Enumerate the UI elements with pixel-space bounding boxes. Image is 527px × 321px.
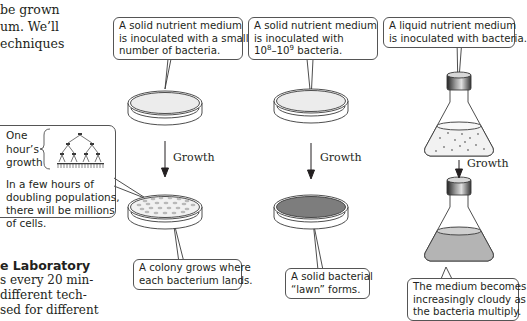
callout-line: A solid bacterial [291, 271, 364, 284]
exponent-base: 10 [254, 45, 267, 56]
callout-colony: A colony grows where each bacterium land… [133, 259, 242, 290]
callout-lawn: A solid bacterial “lawn” forms. [285, 268, 370, 299]
callout-line: A solid nutrient medium [254, 20, 372, 33]
callout-line: the bacteria multiply. [413, 306, 513, 319]
growth-label: Growth [320, 151, 362, 164]
description-line: of cells. [6, 217, 120, 230]
callout-text: bacteria. [294, 45, 342, 56]
callout-line: A liquid nutrient medium [389, 20, 509, 33]
description-line: In a few hours of [6, 178, 120, 191]
growth-label: Growth [467, 157, 509, 170]
description-line: doubling populations, [6, 191, 120, 204]
callout-cloudy: The medium becomes increasingly cloudy a… [407, 278, 519, 321]
brace-label-line: growth [6, 156, 43, 170]
callout-line: A solid nutrient medium [119, 20, 237, 33]
callout-line: “lawn” forms. [291, 284, 364, 297]
petri-dish-large-inoculum [274, 89, 348, 123]
petri-dish-lawn [274, 195, 348, 229]
callout-line: increasingly cloudy as [413, 294, 513, 307]
callout-line: The medium becomes [413, 281, 513, 294]
description-line: there will be millions [6, 204, 120, 217]
callout-line: is inoculated with a small [119, 33, 237, 46]
callout-line: 108–109 bacteria. [254, 45, 372, 58]
callout-line: number of bacteria. [119, 45, 237, 58]
doubling-tree-icon [59, 135, 101, 162]
callout-line: each bacterium lands. [139, 275, 236, 288]
brace-label-line: One [6, 129, 43, 143]
callout-liquid-inoculum: A liquid nutrient medium is inoculated w… [383, 17, 515, 48]
growth-description: In a few hours of doubling populations, … [6, 178, 120, 230]
growth-label: Growth [173, 151, 215, 164]
flask-cloudy [425, 177, 494, 261]
callout-line: is inoculated with [254, 33, 372, 46]
brace-label: One hour’s growth [6, 129, 43, 170]
flask-inoculated [425, 72, 494, 156]
callout-line: A colony grows where [139, 262, 236, 275]
callout-line: is inoculated with bacteria. [389, 33, 509, 46]
brace-label-line: hour’s [6, 143, 43, 157]
exponent-base: –10 [271, 45, 289, 56]
petri-dish-small-inoculum [128, 91, 202, 125]
callout-small-inoculum: A solid nutrient medium is inoculated wi… [113, 17, 243, 60]
callout-large-inoculum: A solid nutrient medium is inoculated wi… [248, 17, 378, 60]
